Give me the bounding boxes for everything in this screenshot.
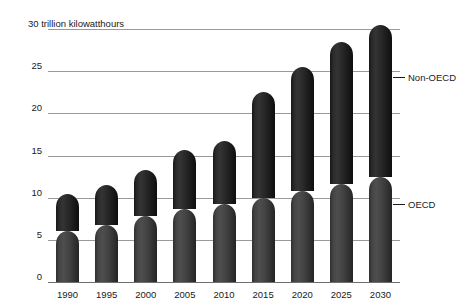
- bar-group: [330, 42, 353, 282]
- bar-segment-oecd: [369, 177, 392, 282]
- bar-segment-non-oecd: [252, 92, 275, 197]
- bar-segment-non-oecd: [95, 185, 118, 225]
- y-tick-label-20: 20: [31, 103, 42, 113]
- bar-segment-non-oecd: [330, 42, 353, 185]
- y-tick-label-10: 10: [31, 188, 42, 198]
- bar-segment-non-oecd: [134, 170, 157, 216]
- bar-segment-oecd: [291, 191, 314, 282]
- bar-segment-oecd: [56, 231, 79, 282]
- bar-series-container: [48, 29, 400, 282]
- y-tick-label-15: 15: [31, 146, 42, 156]
- bar-group: [369, 25, 392, 282]
- bar-group: [56, 194, 79, 282]
- plot-area: 30 trillion kilowatthours 25 20 15 10 5 …: [48, 29, 400, 282]
- y-axis-title: 30 trillion kilowatthours: [28, 18, 124, 29]
- bar-segment-oecd: [134, 216, 157, 282]
- bar-group: [252, 92, 275, 282]
- leader-line-icon: [393, 204, 405, 205]
- bar-segment-non-oecd: [213, 141, 236, 203]
- y-tick-label-5: 5: [37, 230, 42, 240]
- callout-non-oecd: Non-OECD: [393, 72, 456, 83]
- bar-group: [291, 67, 314, 282]
- leader-line-icon: [393, 77, 405, 78]
- bar-group: [173, 150, 196, 282]
- y-tick-label-25: 25: [31, 61, 42, 71]
- bar-segment-non-oecd: [173, 150, 196, 210]
- bar-group: [95, 185, 118, 282]
- bar-segment-non-oecd: [291, 67, 314, 191]
- bar-segment-non-oecd: [369, 25, 392, 177]
- bar-group: [134, 170, 157, 282]
- bar-segment-oecd: [173, 209, 196, 282]
- bar-segment-oecd: [252, 198, 275, 282]
- y-tick-label-0: 0: [37, 272, 42, 282]
- bar-group: [213, 141, 236, 282]
- callout-oecd: OECD: [393, 199, 435, 210]
- bar-segment-oecd: [95, 225, 118, 282]
- bar-segment-oecd: [330, 184, 353, 282]
- gridline-0: [48, 282, 400, 283]
- callout-non-oecd-label: Non-OECD: [408, 72, 456, 83]
- bar-segment-non-oecd: [56, 194, 79, 231]
- x-tick-label: 2030: [357, 289, 403, 300]
- bar-segment-oecd: [213, 204, 236, 282]
- callout-oecd-label: OECD: [408, 199, 435, 210]
